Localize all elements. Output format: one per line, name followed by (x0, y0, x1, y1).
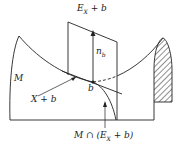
normal-label-sub: b (102, 51, 106, 58)
intersection-label-suffix: + b) (111, 130, 134, 140)
surface-label: M (14, 74, 23, 83)
surface-top-curve-hidden (93, 76, 117, 82)
plane-label-main: E (77, 3, 84, 13)
tangent-label: X + b (31, 95, 56, 104)
intersection-leader-arrowhead-icon (103, 101, 107, 107)
tangent-label-text: X + b (31, 94, 56, 104)
intersection-label: M ∩ (EX + b) (74, 131, 133, 142)
intersection-label-prefix: M ∩ (E (74, 130, 107, 140)
diagram-canvas (0, 0, 184, 150)
tangent-leader-arrowhead-icon (71, 77, 76, 81)
plane-label-suffix: + b (88, 3, 107, 13)
surface-label-text: M (14, 73, 23, 83)
plane-label: EX + b (77, 4, 107, 15)
point-label-text: b (88, 83, 94, 93)
normal-label: nb (96, 47, 106, 58)
point-label: b (88, 84, 94, 93)
hatched-cross-section (154, 38, 172, 102)
surface-top-curve-left (19, 36, 93, 82)
